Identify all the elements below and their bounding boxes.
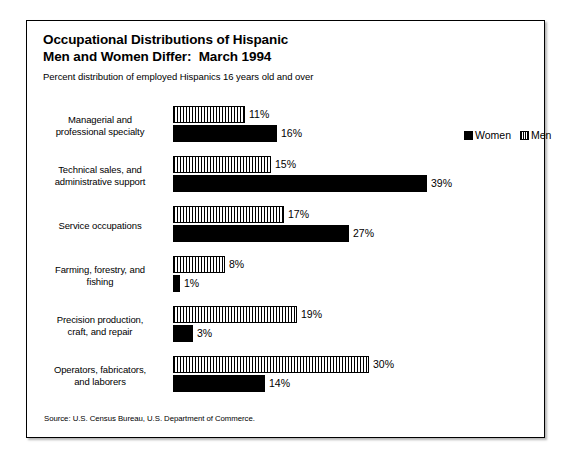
bars-container: 11% 16% (173, 101, 546, 151)
bar-row-women: 1% (173, 275, 199, 292)
bar-value-women: 3% (197, 328, 212, 339)
chart-title-line2: Men and Women Differ: March 1994 (43, 49, 473, 66)
category-label: Managerial and professional specialty (31, 101, 169, 151)
title-block: Occupational Distributions of Hispanic M… (43, 32, 473, 83)
bar-value-men: 8% (229, 259, 244, 270)
bar-group: Technical sales, and administrative supp… (27, 151, 546, 201)
bar-men (173, 306, 297, 323)
bar-row-men: 17% (173, 206, 309, 223)
bars-container: 19% 3% (173, 301, 546, 351)
bar-women (173, 125, 277, 142)
bar-group: Precision production, craft, and repair … (27, 301, 546, 351)
category-label: Precision production, craft, and repair (31, 301, 169, 351)
bar-value-women: 27% (353, 228, 374, 239)
source-note: Source: U.S. Census Bureau, U.S. Departm… (44, 414, 255, 423)
category-label-line: and laborers (74, 376, 126, 388)
bar-group: Farming, forestry, and fishing 8% 1% (27, 251, 546, 301)
bar-women (173, 175, 427, 192)
bar-row-men: 8% (173, 256, 244, 273)
category-label: Operators, fabricators, and laborers (31, 351, 169, 401)
bar-value-women: 14% (269, 378, 290, 389)
bar-men (173, 206, 284, 223)
bars-container: 30% 14% (173, 351, 546, 401)
bar-value-men: 19% (301, 309, 322, 320)
bar-group: Service occupations 17% 27% (27, 201, 546, 251)
category-label: Technical sales, and administrative supp… (31, 151, 169, 201)
bars-container: 15% 39% (173, 151, 546, 201)
bar-row-men: 19% (173, 306, 322, 323)
chart-title-line1: Occupational Distributions of Hispanic (43, 32, 473, 49)
category-label: Service occupations (31, 201, 169, 251)
bars-container: 8% 1% (173, 251, 546, 301)
bar-women (173, 225, 349, 242)
bar-men (173, 356, 369, 373)
bar-value-men: 17% (288, 209, 309, 220)
category-label-line: fishing (87, 276, 114, 288)
bar-women (173, 325, 193, 342)
category-label-line: administrative support (55, 176, 146, 188)
bar-value-women: 16% (281, 128, 302, 139)
category-label-line: Managerial and (68, 114, 132, 126)
chart-panel: Occupational Distributions of Hispanic M… (26, 20, 545, 438)
category-label-line: Precision production, (57, 314, 144, 326)
bar-value-men: 30% (373, 359, 394, 370)
bar-men (173, 256, 225, 273)
category-label-line: craft, and repair (68, 326, 133, 338)
bar-value-men: 11% (249, 109, 269, 120)
category-label-line: Service occupations (58, 220, 141, 232)
category-label-line: Operators, fabricators, (54, 364, 146, 376)
category-label-line: Farming, forestry, and (55, 264, 145, 276)
category-label: Farming, forestry, and fishing (31, 251, 169, 301)
bar-women (173, 275, 180, 292)
bars-container: 17% 27% (173, 201, 546, 251)
chart-subtitle: Percent distribution of employed Hispani… (43, 70, 473, 83)
bar-row-women: 39% (173, 175, 452, 192)
bar-row-men: 15% (173, 156, 296, 173)
bar-group: Managerial and professional specialty 11… (27, 101, 546, 151)
category-label-line: professional specialty (56, 126, 145, 138)
bar-group: Operators, fabricators, and laborers 30%… (27, 351, 546, 401)
bar-men (173, 156, 271, 173)
bar-value-women: 1% (184, 278, 199, 289)
plot-area: Managerial and professional specialty 11… (27, 101, 546, 401)
bar-row-women: 16% (173, 125, 302, 142)
bar-row-men: 11% (173, 106, 269, 123)
bar-women (173, 375, 265, 392)
bar-row-women: 27% (173, 225, 374, 242)
bar-men (173, 106, 245, 123)
bar-value-women: 39% (431, 178, 452, 189)
bar-row-women: 14% (173, 375, 290, 392)
bar-row-women: 3% (173, 325, 212, 342)
bar-row-men: 30% (173, 356, 394, 373)
bar-value-men: 15% (275, 159, 296, 170)
category-label-line: Technical sales, and (58, 164, 142, 176)
